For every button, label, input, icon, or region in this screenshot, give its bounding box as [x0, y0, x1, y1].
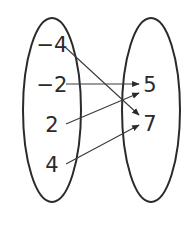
arrow-2-to-5 [66, 93, 139, 124]
mapping-diagram: −4 −2 2 4 5 7 [0, 0, 190, 225]
domain-value-4: 4 [45, 153, 58, 177]
domain-value-2: 2 [45, 113, 58, 137]
domain-value-neg4: −4 [37, 33, 68, 57]
range-value-7: 7 [143, 112, 156, 136]
arrow-4-to-7 [66, 125, 139, 164]
domain-value-neg2: −2 [37, 73, 68, 97]
range-oval [122, 18, 180, 202]
range-value-5: 5 [143, 73, 156, 97]
